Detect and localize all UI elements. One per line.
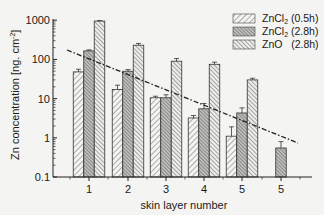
legend-swatch-zncl2-28h [233,27,255,36]
y-tick-label: 0.1 [35,171,50,183]
legend-swatch-zno-28h [233,40,255,49]
x-ticks: 123455 [70,177,300,195]
bar-zno-28h-layer-3 [171,61,182,177]
bar-zncl2-05h-layer-1 [73,72,84,177]
x-tick-label: 1 [86,183,92,195]
legend-swatch-zncl2-05h [233,14,255,23]
bar-zncl2-28h-layer-3 [161,98,172,177]
x-tick-label: 5 [239,183,245,195]
bar-zncl2-05h-layer-2 [112,90,123,177]
bar-zncl2-28h-layer-1 [84,51,95,177]
bar-chart: 10001001010.1 123455 Zn concentration [n… [0,0,324,215]
x-tick-label: 3 [163,183,169,195]
y-tick-label: 1000 [26,14,50,26]
bar-zncl2-05h-layer-4 [188,118,199,177]
x-tick-label: 2 [125,183,131,195]
bar-zno-28h-layer-2 [133,45,144,177]
bar-zncl2-28h-layer-2 [123,71,134,177]
legend-label-zncl2-28h: ZnCl2 (2.8h) [262,25,318,38]
y-tick-label: 1 [44,132,50,144]
y-axis-title: Zn concentration [ng. cm-2] [9,30,21,160]
legend-label-zno-28h: ZnO (2.8h) [262,38,319,50]
x-tick-label: 4 [201,183,207,195]
y-tick-label: 10 [38,93,50,105]
bar-zno-28h-layer-5 [247,80,258,177]
bar-zncl2-05h-layer-3 [150,98,161,177]
legend: ZnCl2 (0.5h) ZnCl2 (2.8h) ZnO (2.8h) [233,12,319,50]
legend-label-zncl2-05h: ZnCl2 (0.5h) [262,12,318,25]
bar-zncl2-28h-layer-6 [276,148,287,177]
x-tick-label: 5 [278,183,284,195]
y-ticks: 10001001010.1 [26,14,57,183]
bar-zno-28h-layer-4 [209,64,220,177]
bar-zncl2-28h-layer-4 [199,109,210,177]
bar-zno-28h-layer-1 [94,21,105,177]
bar-zncl2-05h-layer-5 [226,136,237,177]
y-tick-label: 100 [32,53,50,65]
x-axis-title: skin layer number [141,199,228,211]
